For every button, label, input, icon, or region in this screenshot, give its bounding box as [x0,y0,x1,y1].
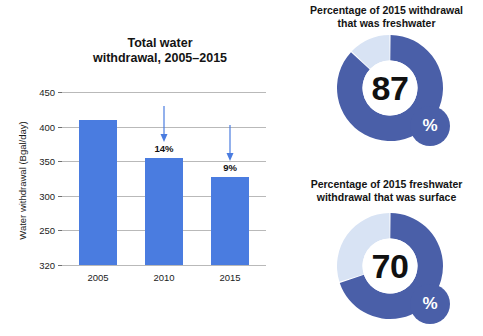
y-gridline [62,92,266,93]
bar-chart-title-line-1: Total water [60,36,260,51]
y-axis-title: Water withdrawal (Bgal/day) [17,101,28,261]
x-tick-label-2010: 2010 [153,265,174,283]
percent-badge-surface: % [410,284,450,324]
donut-chart-title-surface: Percentage of 2015 freshwater withdrawal… [295,178,478,204]
donut-title-line-1: Percentage of 2015 freshwater [295,178,478,191]
y-tick-label: 320 [39,260,55,271]
x-tick-label-2015: 2015 [219,265,240,283]
bar-2005 [79,120,117,265]
bar-2015 [211,177,249,265]
y-tick-mark [58,127,62,128]
bar-chart-panel: Total water withdrawal, 2005–2015 Water … [0,0,290,336]
donut-title-line-1: Percentage of 2015 withdrawal [295,4,478,17]
y-tick-mark [58,92,62,93]
percent-change-label-2010: 14% [154,143,173,154]
bar-chart-plot-area: 4504003503002503202005201014%20159% [62,92,266,265]
y-tick-mark [58,265,62,266]
bar-chart-title: Total water withdrawal, 2005–2015 [60,36,260,66]
y-tick-mark [58,161,62,162]
y-tick-label: 300 [39,190,55,201]
donut-chart-title-freshwater: Percentage of 2015 withdrawal that was f… [295,4,478,30]
donut-graphic-surface: 70 % [334,210,446,322]
y-tick-label: 400 [39,121,55,132]
y-tick-mark [58,196,62,197]
bar-2010 [145,158,183,265]
donut-chart-panel-freshwater: Percentage of 2015 withdrawal that was f… [290,0,483,168]
donut-graphic-freshwater: 87 % [334,32,446,144]
bar-chart-title-line-2: withdrawal, 2005–2015 [60,51,260,66]
y-tick-label: 250 [39,225,55,236]
y-tick-mark [58,230,62,231]
donut-title-line-2: withdrawal that was surface [295,191,478,204]
y-tick-label: 350 [39,156,55,167]
percent-badge-freshwater: % [410,106,450,146]
percent-change-label-2015: 9% [223,162,237,173]
x-tick-label-2005: 2005 [87,265,108,283]
donut-title-line-2: that was freshwater [295,17,478,30]
y-tick-label: 450 [39,87,55,98]
donut-chart-panel-surface: Percentage of 2015 freshwater withdrawal… [290,168,483,336]
down-arrow-icon-2015 [226,125,235,161]
down-arrow-icon-2010 [160,106,169,142]
